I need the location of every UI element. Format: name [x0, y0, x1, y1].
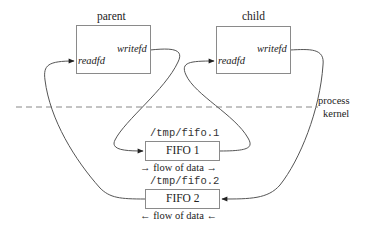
parent-readfd-label: readfd [78, 56, 105, 67]
child-writefd-label: writefd [257, 44, 287, 55]
process-label: process [318, 96, 350, 107]
fifo2-path: /tmp/fifo.2 [150, 176, 219, 187]
fifo1-label: FIFO 1 [166, 145, 200, 157]
fifo2-label: FIFO 2 [166, 193, 200, 205]
fifo1-flow-label: → flow of data → [140, 163, 217, 174]
kernel-label: kernel [323, 109, 349, 120]
fifo1-path: /tmp/fifo.1 [150, 128, 219, 139]
fifo2-flow-label: ← flow of data ← [140, 211, 217, 222]
parent-writefd-label: writefd [117, 44, 147, 55]
parent-title: parent [97, 11, 126, 23]
child-readfd-label: readfd [218, 56, 245, 67]
connector-fifo2-to-parent-readfd [45, 61, 145, 199]
child-title: child [242, 11, 265, 23]
